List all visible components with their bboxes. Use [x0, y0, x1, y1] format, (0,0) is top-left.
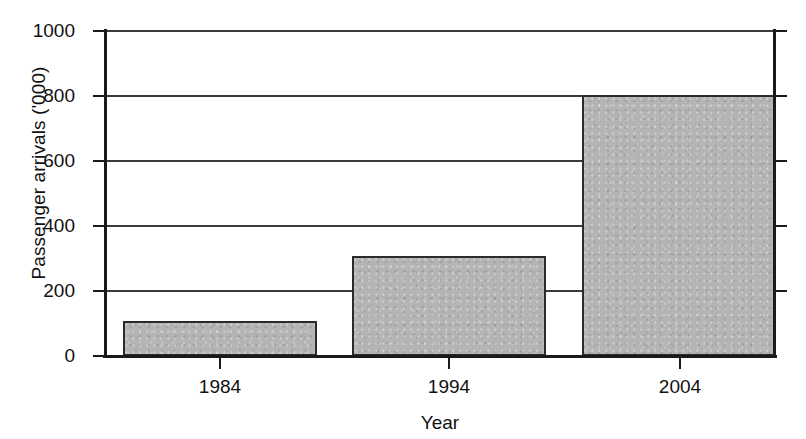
x-axis-line: [103, 355, 777, 358]
x-tick-2004: [679, 357, 681, 369]
x-tick-label-2004: 2004: [659, 376, 701, 398]
y-axis-right-line: [773, 29, 776, 358]
y-tick-right-400: [775, 225, 787, 227]
plot-area: 1000 800 600 400 200 0: [105, 31, 775, 356]
bar-2004[interactable]: [582, 95, 775, 356]
y-tick-label-400: 400: [43, 215, 75, 237]
x-tick-label-1984: 1984: [199, 376, 241, 398]
x-axis-title: Year: [105, 412, 775, 434]
y-tick-label-800: 800: [43, 85, 75, 107]
y-tick-label-600: 600: [43, 150, 75, 172]
bar-1994[interactable]: [352, 256, 546, 356]
y-tick-right-1000: [775, 30, 787, 32]
gridline-1000: [105, 30, 775, 32]
x-tick-1984: [219, 357, 221, 369]
y-tick-right-600: [775, 160, 787, 162]
y-tick-label-1000: 1000: [33, 20, 75, 42]
bar-1984[interactable]: [123, 321, 317, 356]
x-tick-label-1994: 1994: [428, 376, 470, 398]
y-tick-label-0: 0: [64, 345, 75, 367]
x-tick-1994: [448, 357, 450, 369]
y-tick-right-800: [775, 95, 787, 97]
y-tick-right-200: [775, 290, 787, 292]
bar-chart-figure: Passenger arrivals ('000) 1000 800 600 4…: [0, 0, 806, 439]
y-axis-line: [104, 29, 107, 358]
y-tick-label-200: 200: [43, 280, 75, 302]
